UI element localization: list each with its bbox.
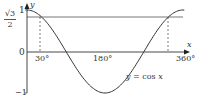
y-tick-label-0: 0 — [19, 48, 25, 57]
curve-eq-x: x — [158, 72, 163, 81]
curve-equation-label: y = cos x — [126, 73, 163, 81]
curve-eq-mid: = cos — [131, 72, 159, 81]
root3-numerator: √3 — [4, 10, 16, 20]
y-tick-label-minus-1: −1 — [15, 89, 27, 97]
x-tick-label-180: 180° — [93, 55, 112, 63]
cosine-graph — [0, 0, 199, 100]
x-tick-label-360: 360° — [176, 55, 195, 63]
x-tick-label-30: 30° — [35, 55, 49, 63]
y-axis-arrow-icon — [25, 3, 30, 9]
root3-denominator: 2 — [4, 20, 16, 29]
y-tick-label-1: 1 — [19, 6, 25, 15]
y-axis-label: y — [30, 1, 35, 9]
x-axis-label: x — [187, 41, 192, 49]
y-tick-label-root3-over-2: √3 2 — [4, 10, 16, 29]
